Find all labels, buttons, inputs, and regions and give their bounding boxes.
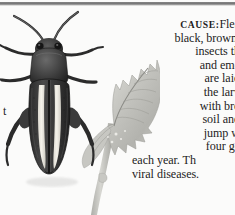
text-line-5: are laid <box>132 72 235 86</box>
text-line-9: jump w <box>132 127 235 141</box>
text-line-12: viral diseases. <box>132 168 235 182</box>
text-line-6: the larv <box>132 86 235 100</box>
text-line-4: and eme <box>132 59 235 73</box>
page-fragment: CAUSE:Flea black, brown, insects th and … <box>0 0 235 215</box>
body-text-column: CAUSE:Flea black, brown, insects th and … <box>132 18 235 181</box>
left-margin-letter-fragment: t <box>3 104 6 119</box>
text-line-7: with bro <box>132 100 235 114</box>
text-line-2: black, brown, <box>132 32 235 46</box>
text-line-3: insects th <box>132 45 235 59</box>
text-line-1: CAUSE:Flea <box>132 18 235 32</box>
text-line-8: soil and <box>132 113 235 127</box>
cause-label: CAUSE: <box>180 19 219 30</box>
text-line-11: each year. Th <box>132 154 235 168</box>
text-line-1-rest: Flea <box>219 17 235 31</box>
text-line-10: four ge <box>132 140 235 154</box>
